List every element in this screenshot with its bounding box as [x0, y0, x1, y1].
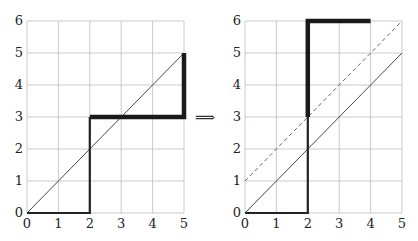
left-plot: 0 1 2 3 4 5 0 1 2 3 4 5 6: [15, 13, 188, 231]
svg-text:2: 2: [15, 141, 23, 156]
implies-arrow-icon: ⟹: [195, 109, 215, 125]
svg-text:4: 4: [233, 77, 241, 92]
svg-text:3: 3: [335, 216, 343, 231]
left-x-tick-labels: 0 1 2 3 4 5: [23, 216, 188, 231]
svg-text:0: 0: [233, 205, 241, 220]
svg-text:2: 2: [304, 216, 312, 231]
svg-text:1: 1: [15, 173, 23, 188]
svg-text:2: 2: [86, 216, 94, 231]
svg-text:1: 1: [233, 173, 241, 188]
svg-text:0: 0: [23, 216, 31, 231]
svg-text:3: 3: [233, 109, 241, 124]
svg-text:5: 5: [398, 216, 406, 231]
svg-text:3: 3: [117, 216, 125, 231]
svg-text:5: 5: [180, 216, 188, 231]
svg-text:0: 0: [15, 205, 23, 220]
left-y-tick-labels: 0 1 2 3 4 5 6: [15, 13, 23, 220]
svg-text:5: 5: [15, 45, 23, 60]
left-diagonal-line: [27, 53, 184, 213]
right-dashed-diagonal-line: [245, 21, 402, 181]
right-grid: [245, 21, 402, 213]
svg-text:4: 4: [148, 216, 156, 231]
right-y-tick-labels: 0 1 2 3 4 5 6: [233, 13, 241, 220]
svg-text:0: 0: [241, 216, 249, 231]
svg-text:1: 1: [272, 216, 280, 231]
right-x-tick-labels: 0 1 2 3 4 5: [241, 216, 406, 231]
svg-text:5: 5: [233, 45, 241, 60]
svg-text:1: 1: [54, 216, 62, 231]
right-diagonal-line: [245, 53, 402, 213]
svg-text:2: 2: [233, 141, 241, 156]
svg-text:6: 6: [233, 13, 241, 28]
diagram-canvas: 0 1 2 3 4 5 0 1 2 3 4 5 6 ⟹: [0, 0, 418, 241]
svg-text:4: 4: [366, 216, 374, 231]
svg-text:6: 6: [15, 13, 23, 28]
right-plot: 0 1 2 3 4 5 0 1 2 3 4 5 6: [233, 13, 406, 231]
svg-text:4: 4: [15, 77, 23, 92]
svg-text:3: 3: [15, 109, 23, 124]
